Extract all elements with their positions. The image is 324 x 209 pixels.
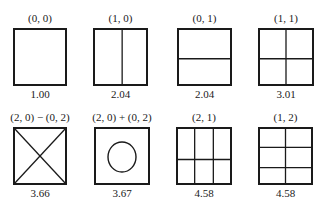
mode-value: 3.01 [236, 88, 324, 100]
mode-diagram-inner-circle [94, 127, 150, 185]
mode-diagram-grid-2x2 [258, 28, 314, 86]
mode-diagram-diagonal-cross [13, 127, 67, 185]
mode-title: (1, 1) [236, 12, 324, 24]
mode-diagram-grid-2x3 [258, 127, 313, 185]
mode-diagram-horizontal-split [177, 28, 232, 86]
mode-value: 4.58 [236, 187, 324, 199]
mode-diagram-plain [13, 28, 67, 86]
mode-title: (1, 2) [236, 111, 324, 123]
mode-diagram-grid-3x2 [176, 127, 232, 185]
mode-diagram-vertical-split [93, 28, 148, 86]
